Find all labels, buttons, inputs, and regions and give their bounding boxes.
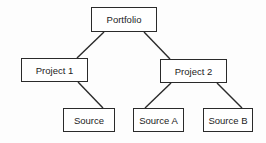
edge-portfolio-project1 <box>77 32 104 58</box>
node-source-b: Source B <box>203 108 253 132</box>
node-project-1: Project 1 <box>21 58 88 82</box>
node-project-2: Project 2 <box>160 59 227 83</box>
edge-portfolio-project2 <box>144 32 170 59</box>
edge-project1-source <box>78 82 103 108</box>
node-portfolio: Portfolio <box>91 7 157 32</box>
edge-project2-sourceA <box>145 83 171 108</box>
node-source-a: Source A <box>133 108 184 132</box>
edge-project2-sourceB <box>217 83 242 108</box>
node-source: Source <box>63 108 115 132</box>
